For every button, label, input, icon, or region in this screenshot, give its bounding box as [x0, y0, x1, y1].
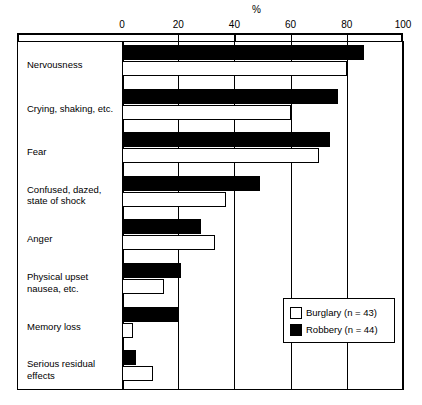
legend-label-burglary: Burglary (n = 43): [306, 307, 377, 318]
x-tick-mark-20: [178, 33, 179, 41]
bar-robbery-6: [122, 307, 178, 322]
x-tick-label-40: 40: [229, 19, 240, 30]
bar-robbery-4: [122, 219, 201, 234]
legend-swatch-burglary-icon: [290, 307, 302, 319]
category-label-6: Memory loss: [27, 321, 81, 333]
bar-burglary-2: [122, 148, 319, 163]
x-tick-label-60: 60: [285, 19, 296, 30]
gridline-100: [403, 41, 404, 390]
bar-robbery-0: [122, 45, 364, 60]
category-label-2: Fear: [27, 146, 47, 158]
category-label-column: NervousnessCrying, shaking, etc.FearConf…: [17, 41, 122, 390]
legend-item-robbery: Robbery (n = 44): [290, 321, 390, 338]
axis-unit-label: %: [252, 4, 261, 15]
x-axis-tick-marks: [17, 33, 403, 41]
bar-burglary-1: [122, 105, 291, 120]
bar-robbery-3: [122, 176, 260, 191]
bar-robbery-7: [122, 350, 136, 365]
bar-burglary-6: [122, 323, 133, 338]
x-tick-label-80: 80: [341, 19, 352, 30]
bar-burglary-3: [122, 192, 226, 207]
x-tick-mark-60: [291, 33, 292, 41]
x-tick-mark-80: [347, 33, 348, 41]
bar-burglary-4: [122, 235, 215, 250]
legend-item-burglary: Burglary (n = 43): [290, 304, 390, 321]
bar-burglary-5: [122, 279, 164, 294]
bar-robbery-1: [122, 89, 338, 104]
category-label-3: Confused, dazed, state of shock: [27, 184, 101, 207]
x-tick-label-0: 0: [119, 19, 125, 30]
bar-burglary-7: [122, 366, 153, 381]
bar-robbery-2: [122, 132, 330, 147]
category-label-1: Crying, shaking, etc.: [27, 103, 113, 115]
category-label-0: Nervousness: [27, 59, 82, 71]
legend-label-robbery: Robbery (n = 44): [306, 324, 378, 335]
category-label-7: Serious residual effects: [27, 358, 95, 381]
x-tick-mark-40: [234, 33, 235, 41]
x-tick-label-20: 20: [173, 19, 184, 30]
x-tick-label-100: 100: [395, 19, 412, 30]
legend-swatch-robbery-icon: [290, 324, 302, 336]
legend: Burglary (n = 43) Robbery (n = 44): [283, 298, 395, 343]
x-axis-tick-labels: 020406080100: [0, 19, 422, 33]
horizontal-bar-chart: % 020406080100 NervousnessCrying, shakin…: [0, 0, 422, 405]
category-label-4: Anger: [27, 233, 52, 245]
bar-burglary-0: [122, 61, 347, 76]
bar-robbery-5: [122, 263, 181, 278]
category-label-5: Physical upset nausea, etc.: [27, 271, 88, 294]
